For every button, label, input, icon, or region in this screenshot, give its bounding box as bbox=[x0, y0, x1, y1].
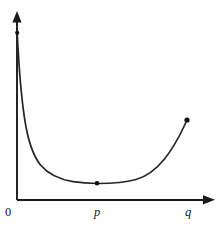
math-figure: 0 p q bbox=[0, 0, 220, 231]
x-tick-label-q: q bbox=[185, 205, 191, 219]
figure-background bbox=[0, 0, 220, 231]
minimum-point-dot bbox=[95, 181, 100, 186]
curve-start-dot bbox=[15, 31, 19, 35]
figure-container: 0 p q bbox=[0, 0, 220, 231]
origin-label: 0 bbox=[5, 205, 11, 219]
endpoint-dot bbox=[184, 117, 189, 122]
x-tick-label-p: p bbox=[93, 205, 100, 219]
